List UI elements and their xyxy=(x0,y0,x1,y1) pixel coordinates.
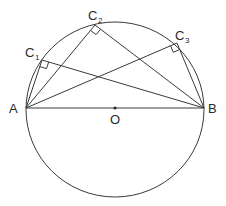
right-angle-marker-c2 xyxy=(91,29,101,34)
label-a: A xyxy=(9,101,18,116)
segment-a-c3 xyxy=(26,43,177,108)
label-c3: C xyxy=(175,28,184,43)
center-point-o xyxy=(113,106,116,109)
segment-a-c1 xyxy=(26,60,42,108)
segment-a-c2 xyxy=(26,25,95,108)
circle-diagram: A B O C 1 C 2 C 3 xyxy=(0,0,226,206)
label-c2-subscript: 2 xyxy=(98,16,103,25)
label-o: O xyxy=(110,112,120,127)
label-c3-subscript: 3 xyxy=(185,36,190,45)
label-c1-subscript: 1 xyxy=(35,53,40,62)
label-c1: C xyxy=(25,45,34,60)
label-c2: C xyxy=(88,8,97,23)
segment-c1-b xyxy=(42,60,204,108)
label-b: B xyxy=(208,101,217,116)
